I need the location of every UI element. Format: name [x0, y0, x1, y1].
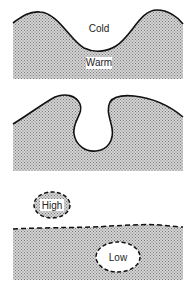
cold-label: Cold [89, 23, 110, 34]
panel-2 [13, 95, 183, 171]
high-label: High [42, 200, 63, 211]
diagram-canvas: Cold Warm High Low [0, 0, 193, 288]
panel-3: High Low [13, 192, 183, 280]
low-label: Low [109, 252, 128, 263]
panel-1: Cold Warm [13, 10, 183, 79]
warm-label: Warm [86, 57, 112, 68]
